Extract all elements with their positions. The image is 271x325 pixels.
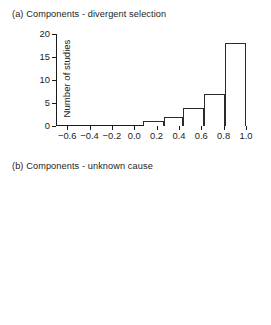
panel-a-x-tick-label: 1.0 [239, 131, 252, 140]
panel-a-y-tick-label: 0 [45, 121, 50, 130]
panel-a-y-tick [52, 57, 56, 58]
panel-a-x-tick-label: −0.6 [58, 131, 77, 140]
panel-a-y-tick-label: 10 [40, 75, 50, 84]
panel-a-y-axis-line [56, 34, 57, 126]
panel-a-title: (a) Components - divergent selection [12, 9, 166, 19]
panel-a: (a) Components - divergent selection Num… [0, 0, 271, 155]
panel-a-x-tick-label: 0.6 [195, 131, 208, 140]
panel-a-x-tick-label: −0.4 [80, 131, 99, 140]
panel-a-y-tick-label: 20 [40, 29, 50, 38]
panel-a-x-tick-label: 0.4 [172, 131, 185, 140]
panel-a-plot-area: Number of studies 05101520 −0.6−0.4−0.20… [56, 34, 246, 126]
panel-a-bar [143, 121, 164, 126]
panel-a-y-tick [52, 80, 56, 81]
panel-a-bar [204, 94, 225, 126]
panel-b: (b) Components - unknown cause Number of… [0, 155, 271, 325]
panel-a-y-tick [52, 103, 56, 104]
panel-a-y-axis-title: Number of studies [61, 33, 72, 125]
panel-a-bar [164, 117, 183, 126]
panel-a-y-tick-label: 5 [45, 98, 50, 107]
panel-a-bar [183, 108, 203, 126]
panel-a-y-tick [52, 126, 56, 127]
panel-a-y-tick-label: 15 [40, 52, 50, 61]
panel-a-bar [225, 43, 246, 126]
panel-b-title: (b) Components - unknown cause [12, 161, 153, 171]
figure-histograms: (a) Components - divergent selection Num… [0, 0, 271, 325]
panel-a-x-tick-label: 0.0 [128, 131, 141, 140]
panel-a-x-tick-label: 0.2 [150, 131, 163, 140]
panel-a-x-tick-label: −0.2 [103, 131, 122, 140]
panel-a-x-tick-label: 0.8 [217, 131, 230, 140]
panel-a-y-tick [52, 34, 56, 35]
